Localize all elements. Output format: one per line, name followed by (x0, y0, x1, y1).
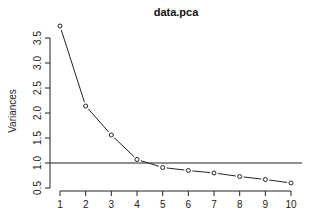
data-point (263, 178, 267, 182)
chart-title: data.pca (154, 6, 200, 18)
y-tick-label: 1.5 (32, 131, 43, 145)
series-segment (88, 109, 108, 132)
y-tick-label: 3.5 (32, 31, 43, 45)
y-tick-label: 2.5 (32, 81, 43, 95)
series-segment (192, 171, 210, 173)
y-tick-label: 1.0 (32, 156, 43, 170)
series-segment (61, 30, 84, 102)
x-tick-label: 5 (160, 199, 166, 210)
x-tick-label: 3 (109, 199, 115, 210)
y-axis-label: Variances (7, 89, 18, 133)
y-tick-label: 0.5 (32, 181, 43, 195)
y-tick-label: 3.0 (32, 56, 43, 70)
series-segment (114, 138, 134, 157)
x-tick-label: 7 (211, 199, 217, 210)
series-segment (167, 168, 185, 170)
y-tick-label: 2.0 (32, 106, 43, 120)
data-point (238, 175, 242, 179)
y-axis: 0.51.01.52.02.53.03.5 (32, 31, 50, 195)
data-point (186, 169, 190, 173)
x-tick-label: 10 (285, 199, 297, 210)
data-point (109, 133, 113, 137)
data-point (84, 104, 88, 108)
data-point (161, 166, 165, 170)
x-tick-label: 8 (237, 199, 243, 210)
series-segment (218, 174, 236, 176)
x-axis: 12345678910 (57, 191, 297, 210)
scree-plot: data.pca Variances 0.51.01.52.02.53.03.5… (0, 0, 313, 220)
data-point (58, 24, 62, 28)
x-tick-label: 4 (134, 199, 140, 210)
x-tick-label: 2 (83, 199, 89, 210)
data-point (289, 181, 293, 185)
series-segment (244, 177, 262, 179)
x-tick-label: 6 (186, 199, 192, 210)
data-series (58, 24, 293, 185)
x-tick-label: 1 (57, 199, 63, 210)
x-tick-label: 9 (263, 199, 269, 210)
data-point (212, 171, 216, 175)
series-segment (269, 180, 287, 182)
data-point (135, 158, 139, 162)
